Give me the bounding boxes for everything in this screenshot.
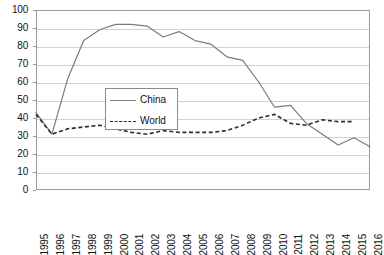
x-axis-tick-label: 2010 xyxy=(279,234,289,255)
x-axis-tick-label: 1996 xyxy=(56,234,66,255)
gridlines xyxy=(37,11,369,189)
x-axis-tick-label: 2008 xyxy=(247,234,257,255)
y-axis-tick-label: 50 xyxy=(17,95,28,105)
gridline xyxy=(37,173,369,174)
legend: China World xyxy=(105,88,178,130)
x-axis-tick-label: 1997 xyxy=(72,234,82,255)
x-axis-tick-label: 2005 xyxy=(199,234,209,255)
x-axis-tick-label: 2011 xyxy=(294,234,304,255)
x-axis-tick-label: 1995 xyxy=(40,234,50,255)
y-axis-tick-mark xyxy=(33,190,36,191)
x-axis: 1995199619971998199920002001200220032004… xyxy=(36,192,370,242)
y-axis-tick-label: 80 xyxy=(17,41,28,51)
y-axis-tick-label: 20 xyxy=(17,149,28,159)
x-axis-tick-label: 2014 xyxy=(342,234,352,255)
x-axis-tick-label: 2006 xyxy=(215,234,225,255)
gridline xyxy=(37,29,369,30)
legend-item-world: World xyxy=(106,110,177,131)
x-axis-tick-label: 2001 xyxy=(135,234,145,255)
x-axis-tick-label: 1998 xyxy=(88,234,98,255)
y-axis-tick-label: 30 xyxy=(17,131,28,141)
y-axis-tick-label: 40 xyxy=(17,113,28,123)
gridline xyxy=(37,137,369,138)
gridline xyxy=(37,155,369,156)
gridline xyxy=(37,47,369,48)
x-axis-tick-label: 2012 xyxy=(310,234,320,255)
x-axis-tick-label: 2000 xyxy=(120,234,130,255)
gridline xyxy=(37,83,369,84)
y-axis-tick-label: 100 xyxy=(12,5,28,15)
legend-label-world: World xyxy=(140,116,166,126)
x-axis-tick-label: 2015 xyxy=(358,234,368,255)
y-axis-tick-label: 0 xyxy=(23,185,28,195)
x-axis-tick-label: 2002 xyxy=(151,234,161,255)
y-axis-tick-label: 70 xyxy=(17,59,28,69)
x-axis-tick-label: 2007 xyxy=(231,234,241,255)
dashed-line-swatch xyxy=(110,116,136,126)
legend-label-china: China xyxy=(140,95,166,105)
x-axis-tick-label: 2016 xyxy=(374,234,384,255)
y-axis-tick-label: 90 xyxy=(17,23,28,33)
legend-item-china: China xyxy=(106,89,177,110)
x-axis-tick-label: 2003 xyxy=(167,234,177,255)
x-axis-tick-label: 1999 xyxy=(104,234,114,255)
gridline xyxy=(37,119,369,120)
x-axis-tick-label: 2004 xyxy=(183,234,193,255)
gridline xyxy=(37,65,369,66)
x-axis-tick-label: 2013 xyxy=(326,234,336,255)
y-axis-tick-label: 60 xyxy=(17,77,28,87)
plot-area xyxy=(36,10,370,190)
y-axis: 0102030405060708090100 xyxy=(0,10,32,190)
gridline xyxy=(37,101,369,102)
x-axis-tick-label: 2009 xyxy=(263,234,273,255)
solid-line-swatch xyxy=(110,95,136,105)
y-axis-tick-label: 10 xyxy=(17,167,28,177)
